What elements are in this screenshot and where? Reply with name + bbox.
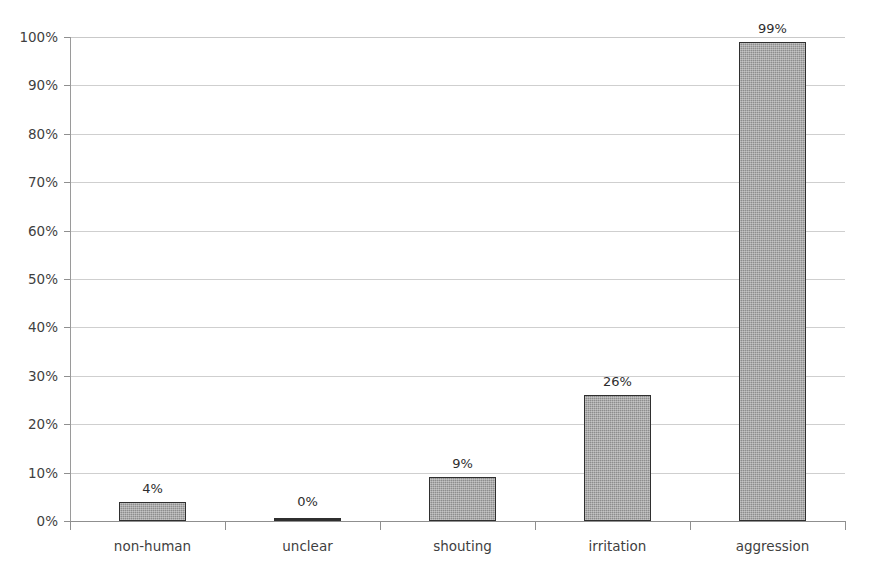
y-tick-20: [64, 424, 70, 425]
gridline-60: [70, 231, 845, 232]
clipped-title-strip: [0, 0, 869, 9]
bar-value-unclear: 0%: [297, 494, 318, 509]
y-axis-label-90: 90%: [0, 77, 58, 93]
y-tick-30: [64, 376, 70, 377]
y-axis-label-40: 40%: [0, 319, 58, 335]
y-axis-label-10: 10%: [0, 465, 58, 481]
y-tick-100: [64, 37, 70, 38]
y-axis-label-60: 60%: [0, 223, 58, 239]
gridline-30: [70, 376, 845, 377]
x-axis-label-unclear: unclear: [282, 538, 332, 554]
bar-value-aggression: 99%: [758, 21, 787, 36]
y-axis-line: [70, 37, 71, 522]
bar-value-non-human: 4%: [142, 481, 163, 496]
y-axis-label-80: 80%: [0, 126, 58, 142]
bar-shouting: [429, 477, 496, 521]
y-axis-label-30: 30%: [0, 368, 58, 384]
bar-unclear: [274, 518, 341, 521]
x-tick-0: [70, 522, 71, 530]
x-axis-label-aggression: aggression: [736, 538, 810, 554]
x-tick-4: [690, 522, 691, 530]
y-tick-90: [64, 85, 70, 86]
x-axis-label-shouting: shouting: [433, 538, 492, 554]
x-tick-5: [845, 522, 846, 530]
y-tick-70: [64, 182, 70, 183]
x-axis-label-irritation: irritation: [589, 538, 647, 554]
gridline-100: [70, 37, 845, 38]
x-axis-line: [70, 521, 846, 522]
y-axis-label-50: 50%: [0, 271, 58, 287]
gridline-10: [70, 473, 845, 474]
y-axis-label-0: 0%: [0, 513, 58, 529]
y-tick-50: [64, 279, 70, 280]
bar-non-human: [119, 502, 186, 521]
y-axis-label-100: 100%: [0, 29, 58, 45]
bar-chart: 100% 90% 80% 70% 60% 50% 40% 30% 20% 10%…: [0, 0, 869, 583]
y-tick-40: [64, 327, 70, 328]
bar-irritation: [584, 395, 651, 521]
x-tick-1: [225, 522, 226, 530]
plot-area: [70, 37, 845, 521]
bar-aggression: [739, 42, 806, 521]
y-tick-10: [64, 473, 70, 474]
bar-value-irritation: 26%: [603, 374, 632, 389]
gridline-20: [70, 424, 845, 425]
x-tick-2: [380, 522, 381, 530]
gridline-70: [70, 182, 845, 183]
bar-value-shouting: 9%: [452, 456, 473, 471]
x-axis-label-non-human: non-human: [114, 538, 191, 554]
gridline-80: [70, 134, 845, 135]
y-tick-60: [64, 231, 70, 232]
gridline-50: [70, 279, 845, 280]
gridline-40: [70, 327, 845, 328]
y-tick-80: [64, 134, 70, 135]
y-axis-label-70: 70%: [0, 174, 58, 190]
y-axis-label-20: 20%: [0, 416, 58, 432]
gridline-90: [70, 85, 845, 86]
x-tick-3: [535, 522, 536, 530]
